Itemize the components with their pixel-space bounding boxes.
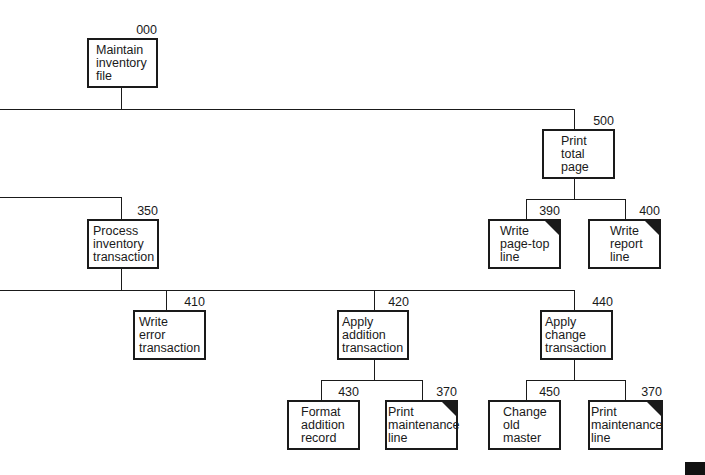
module-number: 430: [322, 386, 359, 399]
connector: [574, 109, 575, 129]
connector: [121, 268, 122, 290]
connector: [574, 290, 575, 310]
connector: [0, 197, 122, 198]
module-number: 350: [121, 205, 158, 218]
module-process-inventory-transaction: Process inventory transaction: [87, 219, 159, 269]
module-number: 400: [623, 205, 660, 218]
module-number: 440: [576, 296, 613, 309]
module-number: 420: [372, 296, 409, 309]
connector: [574, 359, 575, 380]
common-module-marker: [544, 220, 560, 236]
module-label: file: [96, 70, 153, 83]
connector: [574, 178, 575, 199]
module-label: transaction: [139, 342, 201, 355]
connector: [0, 290, 575, 291]
module-number: 370: [625, 386, 662, 399]
connector: [0, 109, 575, 110]
module-label: transaction: [545, 342, 608, 355]
module-label: transaction: [93, 251, 154, 264]
module-change-old-master: Change old master: [488, 400, 561, 450]
module-write-report-line: Write report line: [588, 219, 661, 269]
module-number: 370: [420, 386, 457, 399]
module-write-error-transaction: Write error transaction: [133, 310, 206, 360]
connector: [526, 199, 626, 200]
page-edge-mark: [685, 462, 705, 475]
module-number: 000: [120, 24, 157, 37]
common-module-marker: [646, 401, 662, 417]
module-format-addition-record: Format addition record: [287, 400, 360, 450]
module-apply-change-transaction: Apply change transaction: [540, 310, 613, 360]
common-module-marker: [644, 220, 660, 236]
module-maintain-inventory-file: Maintain inventory file: [87, 38, 158, 88]
connector: [321, 380, 423, 381]
module-number: 410: [168, 296, 205, 309]
module-label: record: [301, 432, 355, 445]
module-label: master: [503, 432, 556, 445]
module-apply-addition-transaction: Apply addition transaction: [337, 310, 409, 360]
module-print-maintenance-line: Print maintenance line: [385, 400, 458, 450]
module-label: line: [388, 432, 453, 445]
module-number: 500: [577, 115, 614, 128]
module-print-maintenance-line: Print maintenance line: [588, 400, 663, 450]
module-label: line: [591, 432, 658, 445]
module-number: 450: [523, 386, 560, 399]
connector: [121, 87, 122, 109]
module-number: 390: [523, 205, 560, 218]
connector: [166, 290, 167, 310]
module-label: page: [561, 161, 610, 174]
connector: [526, 380, 626, 381]
module-label: line: [500, 251, 556, 264]
module-write-page-top-line: Write page-top line: [488, 219, 561, 269]
module-label: line: [610, 251, 656, 264]
connector: [374, 359, 375, 380]
module-print-total-page: Print total page: [542, 129, 615, 179]
module-label: transaction: [342, 342, 404, 355]
common-module-marker: [441, 401, 457, 417]
